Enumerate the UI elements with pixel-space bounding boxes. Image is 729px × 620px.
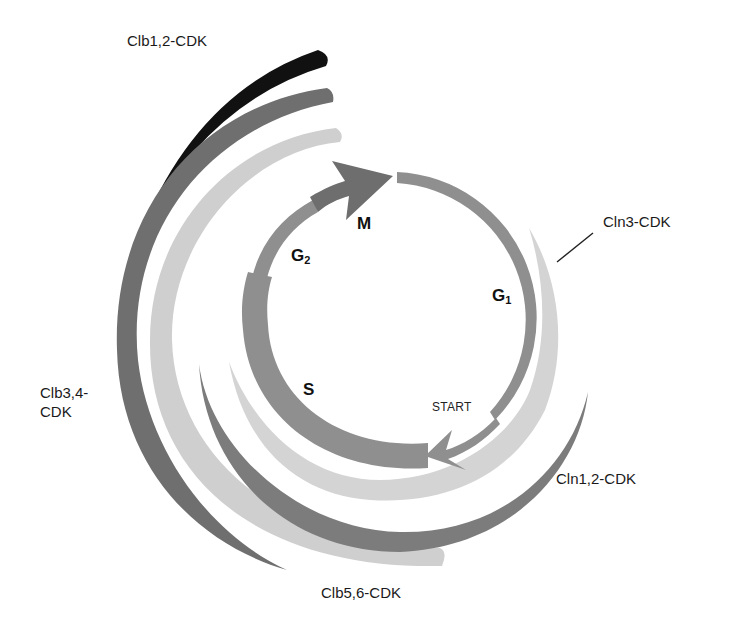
clb12-cdk-label: Clb1,2-CDK: [127, 31, 207, 50]
g1-subscript: 1: [505, 294, 511, 306]
g1-letter: G: [492, 286, 505, 305]
clb56-cdk-label: Clb5,6-CDK: [321, 583, 401, 602]
clb34-cdk-label-line2: CDK: [40, 402, 88, 421]
cell-cycle-diagram: [0, 0, 729, 620]
clb34-cdk-label-line1: Clb3,4-: [40, 383, 88, 402]
m-arrow: [310, 161, 393, 220]
cln12-cdk-label: Cln1,2-CDK: [556, 469, 636, 488]
g2-letter: G: [291, 246, 304, 265]
g2-segment: [253, 200, 318, 278]
clb34-cdk-label: Clb3,4- CDK: [40, 383, 88, 421]
cln3-cdk-label: Cln3-CDK: [603, 212, 671, 231]
s-phase-label: S: [303, 380, 314, 400]
start-label: START: [432, 400, 472, 414]
cln3-leader-line: [557, 233, 593, 262]
g2-phase-label: G2: [291, 246, 310, 266]
g1-phase-label: G1: [492, 286, 511, 306]
g1-segment: [397, 172, 537, 420]
g2-subscript: 2: [304, 254, 310, 266]
m-phase-label: M: [357, 214, 371, 234]
